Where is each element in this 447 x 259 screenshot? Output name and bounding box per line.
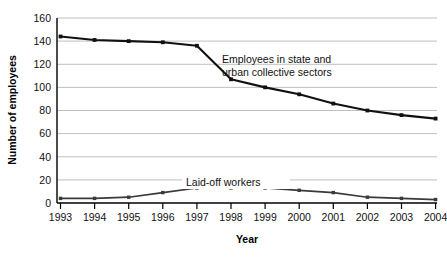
x-tick-label: 2002 (356, 211, 380, 223)
x-axis-tick-labels: 1993 1994 1995 1996 1997 1998 1999 2000 … (49, 211, 447, 223)
annotation-lower-label: Laid-off workers (186, 176, 261, 188)
annotation-upper-line-2: urban collective sectors (222, 66, 332, 78)
y-tick-label: 40 (39, 151, 51, 163)
x-tick-label: 2001 (322, 211, 346, 223)
data-point-marker (127, 39, 131, 43)
y-tick-label: 140 (33, 35, 51, 47)
x-tick-label: 1996 (151, 211, 175, 223)
data-point-marker (263, 85, 267, 89)
x-tick-label: 1993 (49, 211, 73, 223)
x-axis-tick-marks (61, 203, 436, 209)
data-point-marker (332, 191, 335, 194)
data-point-marker (161, 191, 164, 194)
data-point-marker (59, 197, 62, 200)
y-axis-title: Number of employees (6, 55, 18, 165)
x-tick-label: 2003 (390, 211, 414, 223)
x-tick-label: 1998 (219, 211, 243, 223)
x-axis-title: Year (236, 233, 258, 245)
x-tick-label: 2004 (424, 211, 447, 223)
data-point-marker (297, 92, 301, 96)
annotation-upper-line-1: Employees in state and (222, 53, 331, 65)
y-tick-label: 60 (39, 127, 51, 139)
data-point-marker (161, 40, 165, 44)
data-point-marker (400, 113, 404, 117)
chart-canvas: 160 140 120 100 80 60 40 20 0 Number of … (0, 0, 447, 259)
x-tick-label: 1997 (185, 211, 209, 223)
data-point-marker (331, 102, 335, 106)
data-point-marker (366, 109, 370, 113)
data-point-marker (59, 35, 63, 39)
annotation-lower: Laid-off workers (182, 176, 290, 189)
series-line-laid-off-workers (61, 188, 436, 200)
y-tick-label: 0 (45, 197, 51, 209)
x-tick-label: 1994 (83, 211, 107, 223)
data-point-marker (366, 196, 369, 199)
y-tick-label: 160 (33, 12, 51, 24)
x-tick-label: 2000 (288, 211, 312, 223)
y-tick-label: 20 (39, 174, 51, 186)
data-point-marker (298, 189, 301, 192)
data-point-marker (93, 38, 97, 42)
data-point-marker (434, 198, 437, 201)
data-point-marker (434, 117, 438, 121)
gridlines (57, 18, 437, 180)
x-tick-label: 1999 (253, 211, 277, 223)
annotation-upper: Employees in state and urban collective … (222, 53, 332, 78)
x-tick-label: 1995 (117, 211, 141, 223)
y-tick-label: 100 (33, 81, 51, 93)
y-tick-label: 120 (33, 58, 51, 70)
data-point-marker (127, 196, 130, 199)
data-point-marker (93, 197, 96, 200)
data-point-marker (400, 197, 403, 200)
data-point-marker (195, 44, 199, 48)
y-axis-tick-labels: 160 140 120 100 80 60 40 20 0 (33, 12, 51, 209)
line-chart: 160 140 120 100 80 60 40 20 0 Number of … (0, 0, 447, 259)
y-tick-label: 80 (39, 104, 51, 116)
